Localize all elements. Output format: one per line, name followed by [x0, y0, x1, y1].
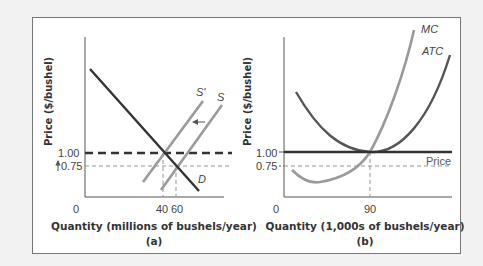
supply-shifted-label: S'	[196, 86, 206, 98]
price-label: Price	[426, 155, 451, 167]
panel-a-xtick-40: 40	[156, 203, 168, 215]
panel-a-y-axis-title: Price ($/bushel)	[43, 57, 54, 146]
demand-label: D	[198, 173, 206, 185]
panel-a-ytick-0-75: 0.75	[61, 160, 82, 172]
panel-a-caption: (a)	[146, 235, 163, 247]
panel-a-xtick-0: 0	[73, 203, 79, 215]
panel-a-x-axis-title: Quantity (millions of bushels/year)	[51, 220, 257, 232]
supply-label: S	[217, 91, 225, 103]
figure: S' S D 1.00 0.75 0 40 60 Price ($/bushel…	[0, 0, 483, 266]
panel-b-xtick-90: 90	[364, 203, 376, 215]
panel-a-ytick-1-00: 1.00	[58, 147, 79, 159]
panel-a-xtick-60: 60	[171, 203, 183, 215]
mc-label: MC	[421, 23, 438, 35]
atc-label: ATC	[421, 45, 443, 57]
panel-b-caption: (b)	[356, 235, 373, 247]
panel-b-ytick-0-75: 0.75	[256, 160, 277, 172]
panel-b-x-axis-title: Quantity (1,000s of bushels/year)	[265, 220, 464, 232]
panel-b-xtick-0: 0	[273, 203, 279, 215]
panel-b-y-axis-title: Price ($/bushel)	[242, 57, 253, 146]
panel-b-ytick-1-00: 1.00	[256, 147, 277, 159]
